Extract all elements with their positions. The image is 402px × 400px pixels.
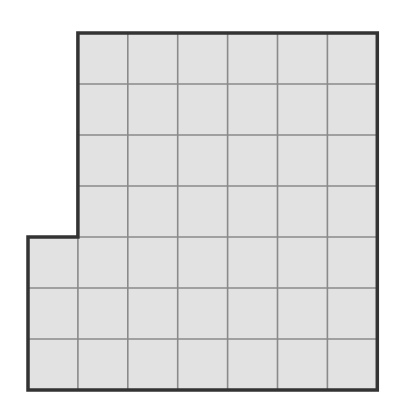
grid-cell [327,288,377,340]
grid-cell [327,186,377,238]
grid-cell [78,186,128,238]
grid-cell [327,33,377,85]
grid-cell [28,339,78,391]
grid-cell [128,84,178,136]
grid-cell [228,33,278,85]
grid-cell [178,186,228,238]
grid-cell [28,237,78,289]
grid-cell [327,339,377,391]
grid-cell [327,237,377,289]
grid-cell [78,135,128,187]
grid-cell [178,339,228,391]
grid-cell [78,237,128,289]
grid-cell [28,288,78,340]
grid-cell [278,339,328,391]
grid-cell [178,84,228,136]
grid-cell [228,288,278,340]
grid-cell [78,339,128,391]
grid-cell [228,237,278,289]
grid-cell [128,237,178,289]
l-shaped-grid-figure [0,0,402,400]
grid-cell [78,288,128,340]
grid-cells [28,33,378,391]
grid-cell [327,135,377,187]
grid-cell [178,135,228,187]
grid-cell [128,33,178,85]
grid-cell [128,339,178,391]
grid-cell [178,33,228,85]
grid-cell [228,339,278,391]
grid-cell [228,186,278,238]
grid-cell [278,186,328,238]
grid-cell [178,288,228,340]
grid-cell [128,135,178,187]
grid-cell [228,135,278,187]
grid-cell [128,186,178,238]
grid-cell [327,84,377,136]
grid-cell [278,33,328,85]
grid-cell [128,288,178,340]
grid-cell [278,288,328,340]
grid-cell [278,237,328,289]
grid-cell [78,33,128,85]
grid-cell [178,237,228,289]
grid-cell [278,84,328,136]
grid-cell [278,135,328,187]
grid-cell [228,84,278,136]
grid-cell [78,84,128,136]
